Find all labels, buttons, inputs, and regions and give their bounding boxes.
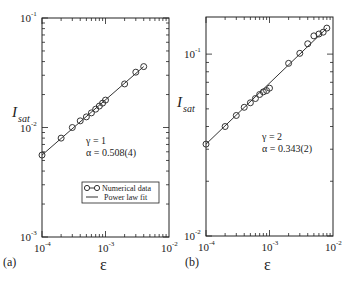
panel-b-alpha: α = 0.343(2) <box>262 143 312 155</box>
panel-b-xtick-labels: 10-410-310-2 <box>198 239 342 253</box>
panel-a: 10-410-310-2 10-310-210-1 I sat ε (a) γ … <box>3 10 178 273</box>
legend-entry-fit: Power law fit <box>104 193 148 202</box>
panel-a-ylabel-sub: sat <box>18 113 30 124</box>
panel-b-gamma: γ = 2 <box>261 131 282 142</box>
panel-a-ytick-labels: 10-310-210-1 <box>20 10 37 243</box>
legend-entry-numerical: Numerical data <box>102 184 152 193</box>
y-tick-label-exponent: -3 <box>31 229 37 237</box>
panel-b-ytick-labels: 10-210-1 <box>184 46 201 242</box>
panel-a-xtick-labels: 10-410-310-2 <box>34 240 178 254</box>
panel-a-alpha: α = 0.508(4) <box>86 147 136 159</box>
y-tick-label-exponent: -2 <box>195 228 201 236</box>
data-point <box>222 124 228 130</box>
panel-b-ylabel-sub: sat <box>183 103 195 114</box>
x-tick-label: 10 <box>262 241 274 253</box>
x-tick-label-exponent: -3 <box>109 240 115 248</box>
x-tick-label-exponent: -4 <box>209 239 215 247</box>
panel-b-xlabel: ε <box>264 256 271 273</box>
data-point <box>122 81 128 87</box>
data-point <box>297 50 303 56</box>
panel-a-ticks <box>42 18 169 237</box>
figure: 10-410-310-2 10-310-210-1 I sat ε (a) γ … <box>0 0 356 282</box>
panel-a-label: (a) <box>3 255 16 269</box>
panel-a-gamma: γ = 1 <box>85 135 106 146</box>
y-tick-label-exponent: -1 <box>195 46 201 54</box>
data-point <box>77 118 83 124</box>
data-point <box>93 106 99 112</box>
y-tick-label: 10 <box>20 12 32 24</box>
x-tick-label-exponent: -4 <box>45 240 51 248</box>
y-tick-label: 10 <box>184 230 196 242</box>
legend: Numerical data Power law fit <box>82 182 159 203</box>
x-tick-label-exponent: -3 <box>273 239 279 247</box>
panel-a-xlabel: ε <box>100 256 107 273</box>
y-tick-label-exponent: -1 <box>31 10 37 18</box>
panel-a-ylabel: I <box>11 104 18 120</box>
y-tick-label-exponent: -2 <box>31 120 37 128</box>
y-tick-label: 10 <box>184 48 196 60</box>
x-tick-label: 10 <box>34 242 46 254</box>
panel-b-label: (b) <box>185 255 199 269</box>
x-tick-label: 10 <box>98 242 110 254</box>
x-tick-label-exponent: -2 <box>336 239 342 247</box>
panel-b-fit-line <box>206 28 327 144</box>
x-tick-label: 10 <box>325 241 337 253</box>
data-point <box>247 100 253 106</box>
x-tick-label-exponent: -2 <box>172 240 178 248</box>
fit-line <box>206 28 327 144</box>
x-tick-label: 10 <box>161 242 173 254</box>
panel-b-ylabel: I <box>176 94 183 110</box>
panel-a-frame <box>42 18 169 237</box>
panel-b: 10-410-310-2 10-210-1 I sat ε (b) γ = 2 … <box>176 17 342 273</box>
x-tick-label: 10 <box>198 241 210 253</box>
y-tick-label: 10 <box>20 231 32 243</box>
